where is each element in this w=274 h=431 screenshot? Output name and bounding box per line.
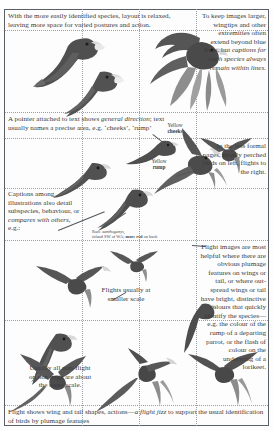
label-race-plain-c: on back [143,234,158,239]
label-race-caption: Race xanthogenys, inland SW of WA; more … [92,229,202,240]
label-cheeks-line1: Yellow [167,122,182,128]
note-lower-right-text: Flight images are most helpful where the… [200,243,266,371]
note-pointer: A pointer attached to text shows general… [8,115,178,132]
note-non-flight-scale-text: Usually all non-flight on one page are a… [29,364,91,389]
label-race-italic: xanthogenys [102,229,124,234]
note-top-left: With the more easily identified species,… [8,12,186,29]
perched-parrot-lower-left [52,68,126,118]
top-margin [0,0,274,8]
label-cheeks-line2: cheeks [167,128,182,134]
note-mid-right-text: In the less formal pages, mostly perched… [203,142,266,176]
label-rump-line2: rump [153,164,166,170]
note-captions-block: Captions among illustrations also detail… [8,190,80,233]
flight-parrot-bottom-centre [96,348,182,412]
guide-plate: With the more easily identified species,… [0,0,274,431]
note-footer-plain-a: Flight shows wing and tail shapes, actio… [8,408,135,416]
perched-parrot-race [92,186,154,234]
label-yellow-cheeks: Yellow cheeks [158,122,192,134]
label-race-bold: more red [126,234,143,239]
note-footer-italic: a flight jizz [135,408,167,416]
note-top-right: To keep images larger, wingtips and othe… [198,12,266,72]
label-race-tail: , [124,229,125,234]
flight-parrot-small-centre [108,248,162,282]
label-race-plain-a: Race [92,229,102,234]
note-pointer-italic: general direction [101,115,150,123]
label-race-plain-b: inland SW of WA; [92,234,126,239]
label-rump-line1: Yellow [151,158,166,164]
note-captions-plain: Captions among illustrations also detail… [8,190,79,215]
note-mid-right: In the less formal pages, mostly perched… [199,142,266,176]
note-non-flight-scale: Usually all non-flight on one page are a… [26,364,94,390]
note-flights-scale-text: Flights usually at smaller scale [102,286,151,303]
note-top-left-text: With the more easily identified species,… [8,12,170,29]
note-pointer-plain-a: A pointer attached to text shows [8,115,101,123]
row-rule-5 [5,240,268,241]
note-flights-scale: Flights usually at smaller scale [94,286,158,303]
note-captions-italic: compares with others [8,216,69,224]
note-lower-right: Flight images are most helpful where the… [199,243,266,372]
note-footer: Flight shows wing and tail shapes, actio… [8,408,264,425]
label-yellow-rump: Yellow rump [142,158,176,170]
